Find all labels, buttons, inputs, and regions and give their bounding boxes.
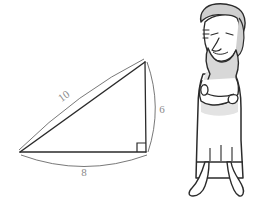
side-label-vertical: 6 [159,103,165,115]
hand-left [201,85,208,95]
diagram-page: 10 6 8 [0,0,274,206]
diagram-canvas: 10 6 8 [0,0,274,206]
side-label-base: 8 [81,166,87,178]
hand-right [228,95,238,104]
